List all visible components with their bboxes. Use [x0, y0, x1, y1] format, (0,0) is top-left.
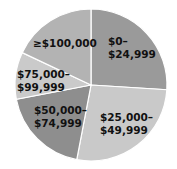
slice-label-3: $75,000– $99,999: [17, 68, 70, 93]
slice-label-1: $25,000– $49,999: [100, 111, 153, 136]
svg-text:$74,999: $74,999: [34, 117, 82, 129]
svg-text:$99,999: $99,999: [17, 81, 65, 93]
svg-text:$0–: $0–: [108, 35, 128, 47]
slice-label-2: $50,000– $74,999: [34, 104, 87, 129]
income-pie-chart: $0– $24,999 $25,000– $49,999 $50,000– $7…: [0, 0, 177, 169]
svg-text:$24,999: $24,999: [108, 48, 156, 60]
svg-text:$75,000–: $75,000–: [17, 68, 70, 80]
svg-text:$50,000–: $50,000–: [34, 104, 87, 116]
svg-text:≥$100,000: ≥$100,000: [33, 37, 97, 49]
svg-text:$49,999: $49,999: [100, 124, 148, 136]
svg-text:$25,000–: $25,000–: [100, 111, 153, 123]
slice-label-4: ≥$100,000: [33, 37, 97, 49]
